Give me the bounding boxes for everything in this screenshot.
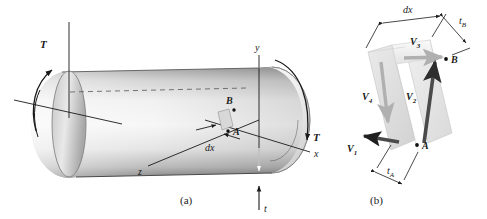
axis-label-y: y bbox=[254, 42, 260, 53]
caption-b: (b) bbox=[370, 194, 383, 207]
dx-label-b: dx bbox=[403, 4, 413, 15]
axis-label-x: x bbox=[313, 148, 319, 159]
point-a-label: A bbox=[232, 126, 240, 137]
dx-ext-left bbox=[366, 22, 380, 48]
dx-dim-line bbox=[383, 16, 440, 23]
panel-b: V3 V4 V2 V1 B A bbox=[347, 4, 470, 207]
point-b-marker-b bbox=[444, 57, 448, 61]
point-b-label: B bbox=[225, 95, 233, 106]
ta-dimension bbox=[375, 145, 418, 184]
figure-svg: y x z T T t B A dx bbox=[0, 0, 487, 219]
torque-label-right: T bbox=[313, 131, 321, 143]
force-v4-label: V4 bbox=[362, 91, 373, 105]
point-a-label-b: A bbox=[421, 140, 429, 151]
torsion-figure: y x z T T t B A dx bbox=[0, 0, 487, 219]
tb-label: tB bbox=[459, 15, 467, 29]
dx-label-a: dx bbox=[205, 142, 215, 153]
ta-ext-right bbox=[404, 152, 418, 180]
force-v3-arrow bbox=[404, 57, 442, 58]
force-v1-label: V1 bbox=[347, 143, 357, 157]
thickness-label: t bbox=[264, 203, 267, 214]
torque-label-left: T bbox=[40, 38, 48, 50]
point-a-marker bbox=[226, 129, 229, 132]
axis-label-z: z bbox=[137, 166, 142, 177]
force-v3 bbox=[404, 57, 442, 58]
tb-ext bbox=[452, 48, 470, 55]
force-v2-label: V2 bbox=[406, 91, 417, 105]
panel-a: y x z T T t B A dx bbox=[14, 22, 321, 214]
ta-label: tA bbox=[387, 165, 395, 179]
point-b-label-b: B bbox=[450, 54, 458, 65]
caption-a: (a) bbox=[180, 194, 193, 207]
point-b-marker bbox=[232, 108, 235, 111]
point-a-marker-b bbox=[415, 143, 419, 147]
